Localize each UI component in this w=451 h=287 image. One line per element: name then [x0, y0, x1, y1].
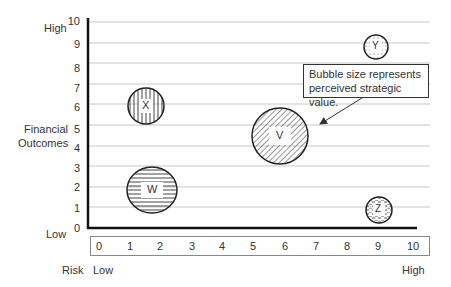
x-tick-9: 9	[368, 240, 388, 252]
x-low-label: Low	[93, 264, 113, 276]
x-tick-5: 5	[243, 240, 263, 252]
y-tick-9: 9	[66, 38, 80, 50]
y-low-label: Low	[46, 228, 66, 240]
y-tick-8: 8	[66, 62, 80, 74]
annotation-line-2: perceived strategic value.	[309, 81, 423, 109]
x-high-label: High	[402, 264, 425, 276]
y-tick-10: 10	[66, 15, 80, 27]
bubble-label-x: X	[142, 99, 149, 111]
x-tick-2: 2	[150, 240, 170, 252]
annotation-callout: Bubble size represents perceived strateg…	[303, 64, 429, 98]
annotation-line-1: Bubble size represents	[309, 67, 423, 81]
y-tick-1: 1	[66, 202, 80, 214]
x-tick-0: 0	[89, 240, 109, 252]
x-tick-3: 3	[182, 240, 202, 252]
x-tick-4: 4	[212, 240, 232, 252]
bubble-label-z: Z	[375, 203, 381, 214]
bubble-label-y: Y	[372, 40, 379, 51]
y-tick-5: 5	[66, 123, 80, 135]
x-tick-10: 10	[403, 240, 423, 252]
x-tick-6: 6	[275, 240, 295, 252]
x-tick-7: 7	[306, 240, 326, 252]
y-axis-title-line1: Financial	[24, 123, 68, 135]
y-tick-3: 3	[66, 162, 80, 174]
bubble-label-w: W	[147, 183, 157, 195]
x-tick-1: 1	[120, 240, 140, 252]
y-tick-2: 2	[66, 181, 80, 193]
y-high-label: High	[44, 22, 67, 34]
y-tick-0: 0	[66, 222, 80, 234]
y-axis-title-line2: Outcomes	[18, 137, 68, 149]
x-tick-8: 8	[337, 240, 357, 252]
y-tick-7: 7	[66, 82, 80, 94]
x-axis-title: Risk	[62, 264, 83, 276]
bubble-label-v: V	[276, 129, 283, 141]
y-tick-6: 6	[66, 101, 80, 113]
